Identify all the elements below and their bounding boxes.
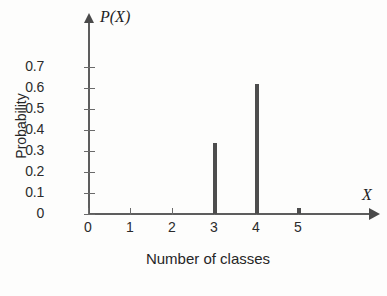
x-axis-tick-label: 3 <box>199 219 229 235</box>
y-axis-tick-label: 0.6 <box>8 79 44 95</box>
y-axis-tick: 0.6 <box>0 88 96 89</box>
y-axis-tick: 0.5 <box>0 109 96 110</box>
chart-screenshot: P(X) X Probability Number of classes 00.… <box>0 0 387 296</box>
y-axis-tick: 0.1 <box>0 193 96 194</box>
y-axis-tick-mark <box>84 214 95 215</box>
x-axis-tick-mark <box>172 208 173 215</box>
y-axis-tick-mark <box>84 130 95 131</box>
y-axis-arrow-icon <box>84 13 94 23</box>
data-spike <box>297 208 301 214</box>
x-axis-arrow-icon <box>369 208 380 220</box>
y-axis-tick-label: 0.3 <box>8 142 44 158</box>
x-axis-tick-label: 1 <box>115 219 145 235</box>
y-axis-tick-mark <box>84 193 95 194</box>
y-axis-tick-label: 0.4 <box>8 121 44 137</box>
x-axis-tick-label: 4 <box>241 219 271 235</box>
y-axis-tick-mark <box>84 67 95 68</box>
data-spike <box>255 84 259 214</box>
x-axis-tick-label: 0 <box>73 219 103 235</box>
y-axis-tick: 0.4 <box>0 130 96 131</box>
x-axis-tick-label: 5 <box>283 219 313 235</box>
x-axis-tick-label: 2 <box>157 219 187 235</box>
y-axis-tick: 0.7 <box>0 67 96 68</box>
x-axis-tick-mark <box>130 208 131 215</box>
y-axis-tick-label: 0.2 <box>8 163 44 179</box>
y-axis-symbol-label: P(X) <box>100 8 130 26</box>
y-axis-tick-label: 0.1 <box>8 184 44 200</box>
plot-area: P(X) X Probability Number of classes 00.… <box>0 0 387 296</box>
y-axis-tick-label: 0.5 <box>8 100 44 116</box>
y-axis-tick-mark <box>84 151 95 152</box>
y-axis-tick: 0.3 <box>0 151 96 152</box>
x-axis-tick-mark <box>88 208 89 215</box>
y-axis-tick-mark <box>84 172 95 173</box>
y-axis-line <box>88 22 90 214</box>
y-axis-tick: 0 <box>0 214 96 215</box>
y-axis-tick-mark <box>84 109 95 110</box>
y-axis-tick-label: 0.7 <box>8 58 44 74</box>
x-axis-symbol-label: X <box>362 186 372 204</box>
y-axis-tick-mark <box>84 88 95 89</box>
y-axis-tick: 0.2 <box>0 172 96 173</box>
x-axis-title: Number of classes <box>88 250 328 267</box>
y-axis-tick-label: 0 <box>8 205 44 221</box>
data-spike <box>213 143 217 214</box>
